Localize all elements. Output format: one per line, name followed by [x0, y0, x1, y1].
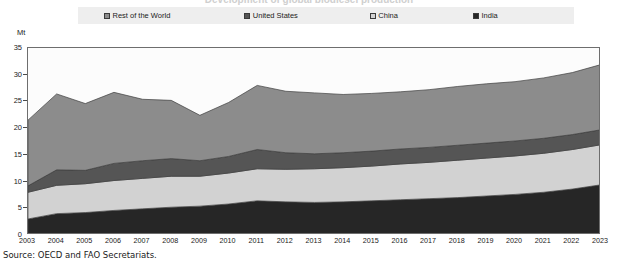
- legend-swatch-india: [473, 13, 479, 19]
- chart-legend: Rest of the World United States China In…: [78, 7, 574, 24]
- x-tick-label: 2007: [134, 236, 150, 245]
- x-tick-label: 2018: [449, 236, 465, 245]
- legend-item-united-states[interactable]: United States: [244, 11, 298, 20]
- legend-item-china[interactable]: China: [370, 11, 398, 20]
- x-tick-label: 2016: [391, 236, 407, 245]
- y-tick-label: 35: [14, 43, 22, 52]
- legend-label-rest-of-the-world: Rest of the World: [113, 11, 171, 20]
- x-tick-label: 2020: [506, 236, 522, 245]
- y-tick-label: 10: [14, 176, 22, 185]
- y-tick-label: 15: [14, 149, 22, 158]
- y-axis-unit-label: Mt: [17, 28, 25, 37]
- y-tick-label: 25: [14, 96, 22, 105]
- x-tick-label: 2022: [563, 236, 579, 245]
- legend-label-china: China: [378, 11, 398, 20]
- x-tick-label: 2004: [48, 236, 64, 245]
- x-tick-label: 2009: [191, 236, 207, 245]
- x-tick-label: 2003: [19, 236, 35, 245]
- legend-swatch-china: [370, 13, 376, 19]
- y-tick-label: 20: [14, 123, 22, 132]
- legend-label-united-states: United States: [253, 11, 298, 20]
- stacked-area-series: [28, 48, 600, 234]
- x-tick-label: 2021: [535, 236, 551, 245]
- page-title: Development of global biodiesel producti…: [0, 0, 618, 5]
- legend-swatch-united-states: [244, 13, 250, 19]
- x-tick-label: 2014: [334, 236, 350, 245]
- y-axis: 05101520253035: [0, 42, 24, 242]
- plot-area: [27, 47, 600, 234]
- x-tick-label: 2017: [420, 236, 436, 245]
- legend-item-india[interactable]: India: [473, 11, 498, 20]
- y-tick-label: 30: [14, 69, 22, 78]
- x-axis: 2003200420052006200720082009201020112012…: [0, 236, 618, 250]
- source-note: Source: OECD and FAO Secretariats.: [3, 250, 157, 260]
- x-tick-label: 2012: [277, 236, 293, 245]
- y-tick-label: 5: [18, 203, 22, 212]
- x-tick-label: 2008: [162, 236, 178, 245]
- x-tick-label: 2005: [76, 236, 92, 245]
- x-tick-label: 2019: [477, 236, 493, 245]
- chart-title-strip: Development of global biodiesel producti…: [0, 0, 618, 6]
- x-tick-label: 2013: [306, 236, 322, 245]
- x-tick-label: 2010: [220, 236, 236, 245]
- x-tick-label: 2015: [363, 236, 379, 245]
- legend-swatch-rest-of-the-world: [104, 13, 110, 19]
- legend-item-rest-of-the-world[interactable]: Rest of the World: [104, 11, 170, 20]
- plot-frame: [27, 47, 600, 234]
- x-tick-label: 2006: [105, 236, 121, 245]
- x-tick-label: 2023: [592, 236, 608, 245]
- legend-label-india: India: [481, 11, 497, 20]
- x-tick-label: 2011: [248, 236, 263, 245]
